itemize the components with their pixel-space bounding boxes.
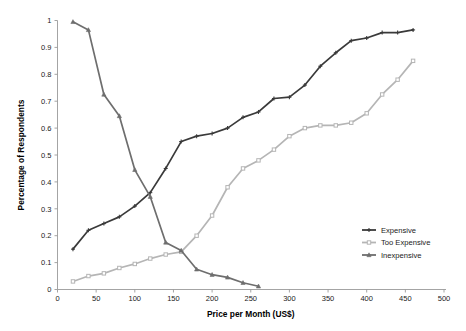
data-point-marker	[272, 148, 275, 151]
y-axis-ticks: 00.10.20.30.40.50.60.70.80.91	[41, 16, 57, 294]
data-point-marker	[396, 31, 400, 35]
data-point-marker	[241, 167, 244, 170]
data-point-marker	[118, 266, 121, 269]
series-line	[73, 30, 413, 249]
y-tick-label: 0.3	[41, 205, 51, 214]
y-tick-label: 0.8	[41, 70, 51, 79]
x-tick-label: 50	[92, 294, 100, 303]
chart-legend: ExpensiveToo ExpensiveInexpensive	[362, 226, 430, 260]
chart-container: 00.10.20.30.40.50.60.70.80.91 0501001502…	[0, 0, 466, 331]
x-axis-ticks: 050100150200250300350400450500	[55, 290, 450, 304]
legend-item-expensive[interactable]: Expensive	[362, 226, 416, 235]
data-point-marker	[164, 240, 168, 244]
x-tick-label: 300	[283, 294, 296, 303]
y-tick-label: 0.6	[41, 124, 51, 133]
data-point-marker	[367, 241, 370, 244]
y-tick-label: 1	[47, 16, 51, 25]
series-too-expensive	[71, 59, 415, 283]
x-tick-label: 200	[206, 294, 219, 303]
y-tick-label: 0.9	[41, 43, 51, 52]
x-tick-label: 100	[129, 294, 142, 303]
data-point-marker	[350, 121, 353, 124]
data-point-marker	[102, 272, 105, 275]
x-tick-label: 400	[360, 294, 373, 303]
series-group	[71, 20, 415, 288]
series-expensive	[71, 28, 415, 251]
y-axis-title: Percentage of Respondents	[16, 99, 26, 210]
x-tick-label: 450	[399, 294, 412, 303]
legend-label: Too Expensive	[381, 238, 430, 247]
data-point-marker	[102, 92, 106, 96]
series-line	[73, 22, 259, 286]
data-point-marker	[164, 253, 167, 256]
legend-item-too-expensive[interactable]: Too Expensive	[362, 238, 430, 247]
legend-item-inexpensive[interactable]: Inexpensive	[362, 251, 422, 260]
y-tick-label: 0.5	[41, 151, 51, 160]
data-point-marker	[195, 234, 198, 237]
y-tick-label: 0.7	[41, 97, 51, 106]
data-point-marker	[210, 131, 214, 135]
data-point-marker	[334, 124, 337, 127]
data-point-marker	[367, 228, 371, 232]
data-point-marker	[319, 124, 322, 127]
y-tick-label: 0.2	[41, 231, 51, 240]
data-point-marker	[411, 28, 415, 32]
data-point-marker	[133, 168, 137, 172]
data-point-marker	[133, 262, 136, 265]
x-tick-label: 250	[244, 294, 257, 303]
axes-group	[58, 21, 447, 290]
legend-label: Expensive	[381, 226, 416, 235]
data-point-marker	[303, 126, 306, 129]
series-line	[73, 61, 413, 282]
data-point-marker	[396, 78, 399, 81]
y-tick-label: 0.1	[41, 258, 51, 267]
line-chart: 00.10.20.30.40.50.60.70.80.91 0501001502…	[0, 0, 466, 331]
x-tick-label: 500	[438, 294, 451, 303]
x-tick-label: 350	[322, 294, 335, 303]
data-point-marker	[380, 93, 383, 96]
data-point-marker	[71, 280, 74, 283]
y-tick-label: 0	[47, 285, 51, 294]
data-point-marker	[257, 159, 260, 162]
x-tick-label: 0	[55, 294, 59, 303]
data-point-marker	[87, 274, 90, 277]
data-point-marker	[365, 36, 369, 40]
legend-label: Inexpensive	[381, 251, 422, 260]
y-tick-label: 0.4	[41, 178, 51, 187]
data-point-marker	[195, 134, 199, 138]
data-point-marker	[380, 31, 384, 35]
series-inexpensive	[71, 20, 261, 288]
data-point-marker	[226, 186, 229, 189]
data-point-marker	[149, 257, 152, 260]
data-point-marker	[71, 20, 75, 24]
data-point-marker	[411, 59, 414, 62]
data-point-marker	[365, 112, 368, 115]
data-point-marker	[288, 134, 291, 137]
data-point-marker	[210, 214, 213, 217]
x-tick-label: 150	[167, 294, 180, 303]
x-axis-title: Price per Month (US$)	[207, 309, 295, 319]
